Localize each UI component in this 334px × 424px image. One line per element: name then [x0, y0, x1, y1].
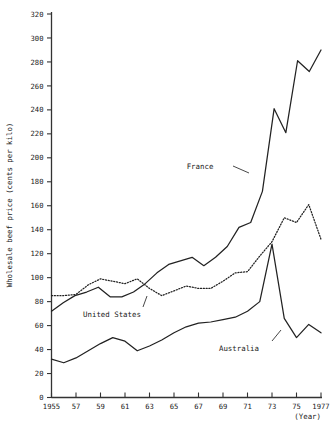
- y-tick-label: 140: [31, 225, 44, 234]
- y-tick-label: 120: [31, 249, 44, 258]
- x-axis-ticks: 1955575961636567697173751977: [43, 393, 330, 412]
- x-tick-label: 69: [219, 402, 228, 411]
- x-tick-label: 1955: [43, 402, 60, 411]
- x-axis-title: (Year): [294, 412, 321, 421]
- y-tick-label: 200: [31, 153, 44, 162]
- y-tick-label: 240: [31, 105, 44, 114]
- x-tick-label: 59: [96, 402, 105, 411]
- beef-price-line-chart: 0204060801001201401601802002202402602803…: [0, 0, 334, 424]
- x-tick-label: 71: [243, 402, 252, 411]
- series-label-australia: Australia: [219, 344, 259, 353]
- y-tick-label: 300: [31, 34, 44, 43]
- x-tick-label: 57: [72, 402, 81, 411]
- united-states-leader-line: [143, 296, 147, 307]
- x-tick-label: 73: [268, 402, 277, 411]
- x-tick-label: 1977: [312, 402, 329, 411]
- series-line-australia: [52, 244, 322, 363]
- y-tick-label: 20: [35, 369, 44, 378]
- y-tick-label: 0: [39, 393, 43, 402]
- y-axis-ticks: 0204060801001201401601802002202402602803…: [31, 10, 52, 403]
- x-tick-label: 75: [292, 402, 301, 411]
- australia-leader-line: [272, 330, 281, 341]
- y-tick-label: 160: [31, 201, 44, 210]
- series-annotations: France United States Australia: [83, 162, 281, 353]
- y-tick-label: 180: [31, 177, 44, 186]
- series-line-france: [52, 50, 322, 311]
- y-axis-title: Wholesale beef price (cents per kilo): [5, 123, 14, 288]
- y-tick-label: 40: [35, 345, 44, 354]
- series-line-united-states: [52, 205, 322, 296]
- chart-figure: 0204060801001201401601802002202402602803…: [0, 0, 334, 424]
- y-tick-label: 280: [31, 58, 44, 67]
- y-tick-label: 100: [31, 273, 44, 282]
- france-leader-line: [233, 166, 249, 173]
- axes: [52, 12, 323, 398]
- y-tick-label: 220: [31, 129, 44, 138]
- x-tick-label: 61: [121, 402, 130, 411]
- x-tick-label: 67: [194, 402, 203, 411]
- x-tick-label: 63: [145, 402, 154, 411]
- y-tick-label: 260: [31, 82, 44, 91]
- x-tick-label: 65: [170, 402, 179, 411]
- y-tick-label: 80: [35, 297, 44, 306]
- y-tick-label: 60: [35, 321, 44, 330]
- series-label-france: France: [187, 162, 214, 171]
- series-label-united-states: United States: [83, 310, 141, 319]
- y-tick-label: 320: [31, 10, 44, 19]
